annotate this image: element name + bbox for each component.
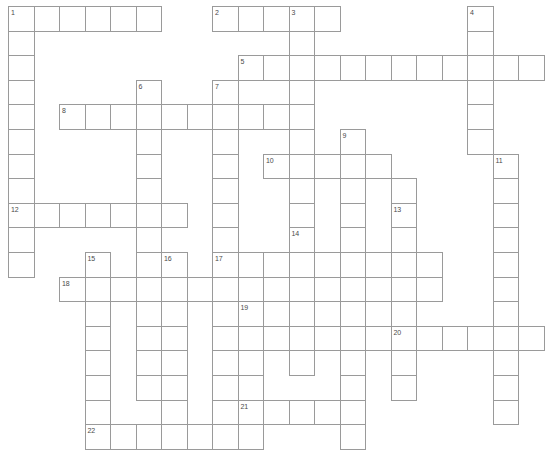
crossword-cell[interactable] (263, 400, 290, 426)
crossword-cell[interactable] (161, 326, 188, 352)
crossword-cell[interactable] (263, 252, 290, 278)
crossword-cell[interactable] (314, 400, 341, 426)
crossword-cell[interactable] (110, 203, 137, 229)
crossword-cell[interactable] (340, 252, 367, 278)
crossword-cell[interactable] (136, 203, 163, 229)
crossword-cell[interactable] (59, 6, 86, 32)
crossword-cell[interactable] (467, 80, 494, 106)
crossword-cell[interactable] (212, 326, 239, 352)
crossword-cell[interactable] (212, 350, 239, 376)
crossword-cell[interactable] (136, 277, 163, 303)
crossword-cell[interactable] (416, 326, 443, 352)
crossword-cell[interactable] (85, 326, 112, 352)
crossword-cell[interactable] (340, 178, 367, 204)
crossword-cell[interactable] (59, 104, 86, 130)
crossword-cell[interactable] (238, 350, 265, 376)
crossword-cell[interactable] (136, 350, 163, 376)
crossword-cell[interactable] (391, 178, 418, 204)
crossword-cell[interactable] (238, 104, 265, 130)
crossword-cell[interactable] (263, 154, 290, 180)
crossword-cell[interactable] (8, 31, 35, 57)
crossword-cell[interactable] (136, 154, 163, 180)
crossword-cell[interactable] (238, 301, 265, 327)
crossword-cell[interactable] (136, 375, 163, 401)
crossword-cell[interactable] (314, 6, 341, 32)
crossword-cell[interactable] (263, 326, 290, 352)
crossword-cell[interactable] (85, 252, 112, 278)
crossword-cell[interactable] (493, 203, 520, 229)
crossword-cell[interactable] (365, 55, 392, 81)
crossword-cell[interactable] (365, 252, 392, 278)
crossword-cell[interactable] (493, 301, 520, 327)
crossword-cell[interactable] (161, 277, 188, 303)
crossword-cell[interactable] (85, 375, 112, 401)
crossword-cell[interactable] (212, 104, 239, 130)
crossword-cell[interactable] (161, 104, 188, 130)
crossword-cell[interactable] (391, 227, 418, 253)
crossword-cell[interactable] (493, 55, 520, 81)
crossword-cell[interactable] (263, 277, 290, 303)
crossword-cell[interactable] (467, 6, 494, 32)
crossword-cell[interactable] (289, 203, 316, 229)
crossword-cell[interactable] (212, 252, 239, 278)
crossword-cell[interactable] (289, 301, 316, 327)
crossword-cell[interactable] (212, 154, 239, 180)
crossword-cell[interactable] (238, 400, 265, 426)
crossword-cell[interactable] (340, 277, 367, 303)
crossword-cell[interactable] (85, 350, 112, 376)
crossword-cell[interactable] (34, 203, 61, 229)
crossword-cell[interactable] (340, 326, 367, 352)
crossword-cell[interactable] (212, 80, 239, 106)
crossword-cell[interactable] (493, 375, 520, 401)
crossword-cell[interactable] (161, 203, 188, 229)
crossword-cell[interactable] (467, 55, 494, 81)
crossword-cell[interactable] (8, 55, 35, 81)
crossword-cell[interactable] (493, 178, 520, 204)
crossword-cell[interactable] (238, 277, 265, 303)
crossword-cell[interactable] (365, 154, 392, 180)
crossword-cell[interactable] (289, 350, 316, 376)
crossword-cell[interactable] (8, 227, 35, 253)
crossword-cell[interactable] (161, 301, 188, 327)
crossword-cell[interactable] (238, 55, 265, 81)
crossword-cell[interactable] (314, 252, 341, 278)
crossword-cell[interactable] (212, 6, 239, 32)
crossword-cell[interactable] (110, 424, 137, 450)
crossword-cell[interactable] (493, 227, 520, 253)
crossword-cell[interactable] (289, 104, 316, 130)
crossword-cell[interactable] (391, 203, 418, 229)
crossword-cell[interactable] (187, 104, 214, 130)
crossword-cell[interactable] (8, 129, 35, 155)
crossword-cell[interactable] (161, 252, 188, 278)
crossword-cell[interactable] (212, 301, 239, 327)
crossword-cell[interactable] (391, 55, 418, 81)
crossword-cell[interactable] (238, 424, 265, 450)
crossword-cell[interactable] (161, 350, 188, 376)
crossword-cell[interactable] (340, 203, 367, 229)
crossword-cell[interactable] (136, 6, 163, 32)
crossword-cell[interactable] (289, 6, 316, 32)
crossword-cell[interactable] (391, 375, 418, 401)
crossword-cell[interactable] (416, 252, 443, 278)
crossword-cell[interactable] (289, 326, 316, 352)
crossword-cell[interactable] (289, 31, 316, 57)
crossword-cell[interactable] (85, 104, 112, 130)
crossword-cell[interactable] (187, 424, 214, 450)
crossword-cell[interactable] (59, 277, 86, 303)
crossword-cell[interactable] (110, 104, 137, 130)
crossword-cell[interactable] (136, 252, 163, 278)
crossword-cell[interactable] (340, 154, 367, 180)
crossword-cell[interactable] (85, 6, 112, 32)
crossword-cell[interactable] (340, 301, 367, 327)
crossword-cell[interactable] (518, 326, 545, 352)
crossword-cell[interactable] (314, 55, 341, 81)
crossword-cell[interactable] (59, 203, 86, 229)
crossword-cell[interactable] (314, 277, 341, 303)
crossword-cell[interactable] (8, 203, 35, 229)
crossword-cell[interactable] (493, 350, 520, 376)
crossword-cell[interactable] (314, 326, 341, 352)
crossword-cell[interactable] (289, 154, 316, 180)
crossword-cell[interactable] (391, 277, 418, 303)
crossword-cell[interactable] (467, 104, 494, 130)
crossword-cell[interactable] (85, 203, 112, 229)
